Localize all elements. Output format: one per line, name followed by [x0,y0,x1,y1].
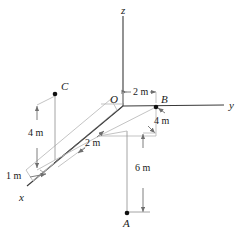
dimension-label-1m: 1 m [6,171,21,181]
dimension-label-4m-left: 4 m [28,128,43,138]
point-label-origin: O [110,94,118,105]
leader-line-a [99,131,127,212]
point-label-c: C [61,81,68,92]
dimension-label-2m-top: 2 m [133,87,148,97]
dimension-1m [30,170,46,177]
axis-label-y: y [229,100,234,111]
dimension-label-4m-right: 4 m [154,116,169,126]
dimension-label-6m: 6 m [135,163,150,173]
axis-label-x: x [19,192,24,203]
horizontal-plane-outline [54,106,156,167]
point-marker-c [53,92,58,97]
dimension-label-2m-middle: 2 m [85,138,100,148]
point-label-b: B [161,94,168,105]
axis-y [123,105,224,106]
point-marker-a [125,211,130,216]
point-marker-b [154,105,159,110]
diagram-svg [0,0,242,239]
figure-canvas: z y x O A B C 2 m 4 m 6 m 2 m 4 m 1 m [0,0,242,239]
axis-label-z: z [121,5,125,16]
reference-plane-strip [26,99,123,181]
point-label-a: A [123,218,130,229]
